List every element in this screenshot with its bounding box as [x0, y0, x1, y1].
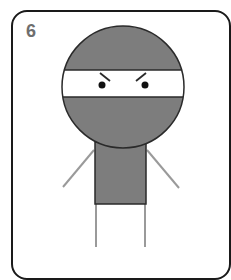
eye-band	[60, 70, 186, 97]
right-eye	[142, 82, 149, 89]
right-arm	[147, 150, 179, 188]
left-arm	[63, 150, 94, 187]
torso	[95, 142, 146, 204]
left-eye	[99, 82, 106, 89]
